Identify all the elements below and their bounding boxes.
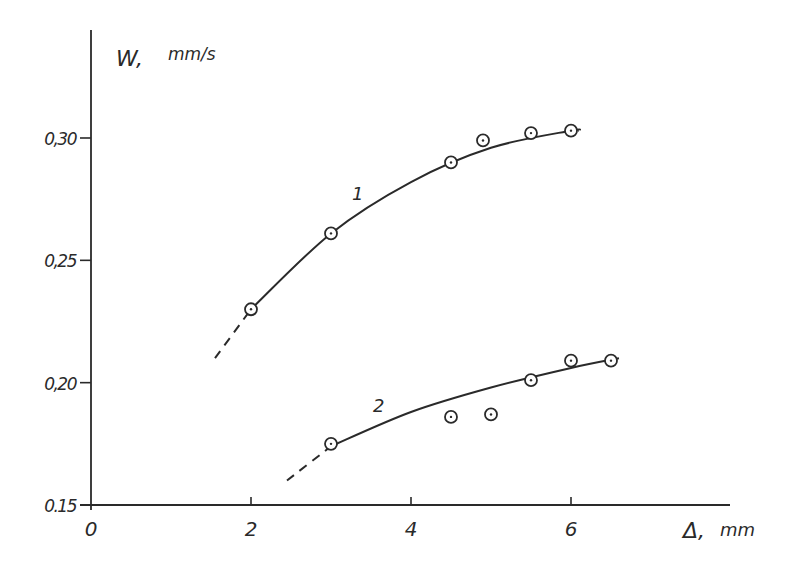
data-point-marker: [525, 374, 537, 386]
y-axis-label: W,: [116, 46, 143, 71]
extrapolation-dashed-2: [287, 446, 331, 480]
data-point-marker: [525, 127, 537, 139]
data-point-marker: [245, 303, 257, 315]
y-axis-unit: mm/s: [168, 44, 216, 64]
chart: 02460.150,200,250,30 W, mm/s Δ, mm 1 2: [0, 0, 799, 582]
data-point-marker: [445, 156, 457, 168]
data-point-marker: [325, 227, 337, 239]
data-point-marker: [485, 408, 497, 420]
y-tick-label: 0,25: [44, 251, 77, 271]
fit-curve-1: [251, 129, 580, 309]
data-point-marker: [445, 411, 457, 423]
x-tick-label: 4: [405, 517, 418, 541]
fit-curves: [215, 129, 619, 480]
curve-2-label: 2: [373, 395, 384, 416]
data-point-marker: [605, 355, 617, 367]
x-axis-label: Δ,: [681, 518, 705, 543]
data-points: [245, 125, 617, 450]
y-tick-label: 0,20: [44, 374, 77, 394]
x-tick-label: 2: [245, 517, 258, 541]
x-tick-label: 6: [565, 517, 578, 541]
y-tick-label: 0.15: [44, 496, 77, 516]
tick-labels: 02460.150,200,250,30: [44, 129, 577, 541]
x-axis-unit: mm: [720, 519, 755, 540]
extrapolation-dashed-1: [215, 309, 251, 358]
data-point-marker: [565, 355, 577, 367]
data-point-marker: [565, 125, 577, 137]
curve-1-label: 1: [352, 183, 363, 204]
x-tick-label: 0: [85, 517, 98, 541]
data-point-marker: [477, 134, 489, 146]
data-point-marker: [325, 438, 337, 450]
y-tick-label: 0,30: [44, 129, 77, 149]
